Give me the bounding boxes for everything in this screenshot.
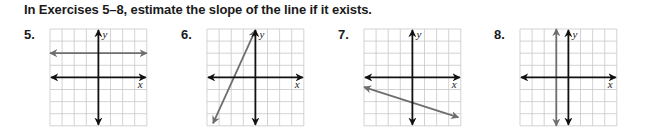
y-axis-label: y [415, 28, 421, 40]
y-axis-label: y [571, 28, 577, 40]
instruction-text: In Exercises 5–8, estimate the slope of … [24, 2, 372, 17]
exercise-number: 5. [24, 27, 35, 42]
x-axis-label: x [294, 78, 300, 90]
y-axis-label: y [101, 28, 107, 40]
coordinate-grid: xy [520, 29, 617, 126]
coordinate-grid: xy [50, 29, 147, 126]
exercise-number: 8. [494, 27, 505, 42]
graphed-line [364, 87, 458, 117]
x-axis-label: x [607, 78, 613, 90]
exercise-number: 7. [338, 27, 349, 42]
x-axis-label: x [137, 78, 143, 90]
coordinate-grid: xy [207, 29, 304, 126]
y-axis-label: y [258, 28, 264, 40]
x-axis-label: x [451, 78, 457, 90]
coordinate-grid: xy [364, 29, 461, 126]
exercise-number: 6. [181, 27, 192, 42]
